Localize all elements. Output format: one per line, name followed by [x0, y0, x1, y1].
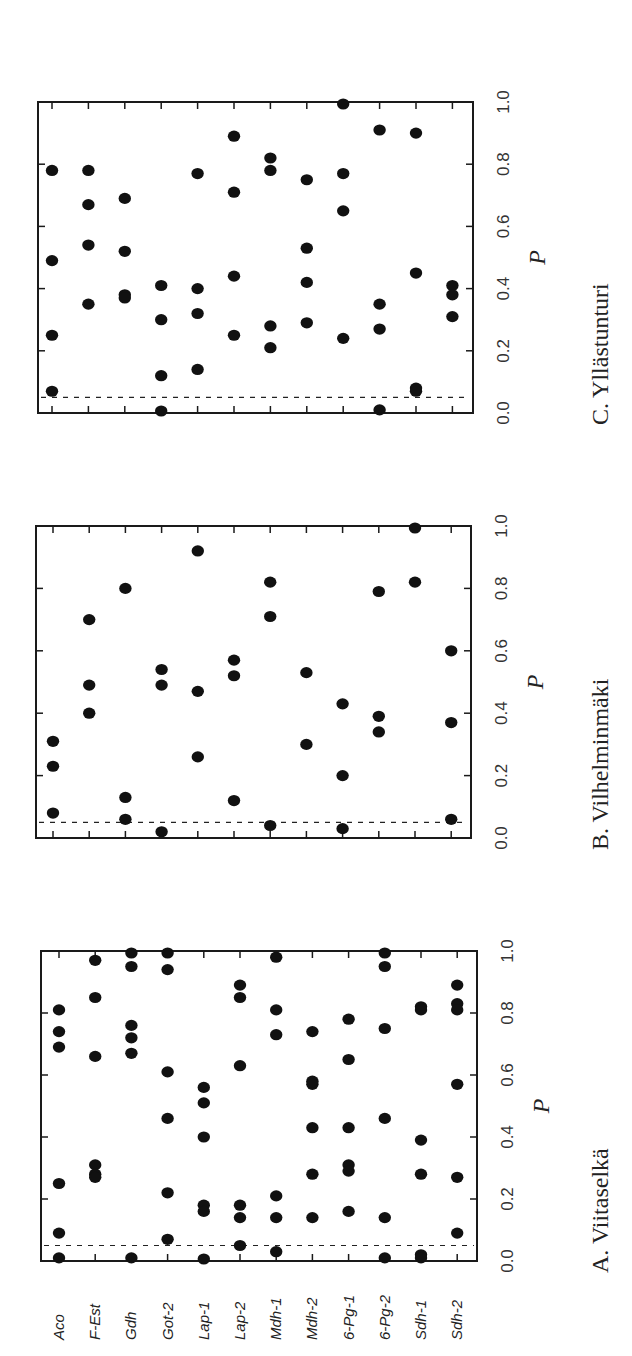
data-point — [373, 711, 385, 722]
data-point — [198, 1253, 210, 1264]
data-point — [451, 1172, 463, 1183]
data-point — [379, 1212, 391, 1223]
data-point — [82, 299, 94, 310]
data-point — [234, 1240, 246, 1251]
data-point — [410, 128, 422, 139]
panel-b-vilhelminmaki: 0.00.20.40.60.81.0PB. Vilhelminmäki — [36, 514, 613, 850]
data-point — [234, 1212, 246, 1223]
data-point — [228, 655, 240, 666]
data-point — [228, 670, 240, 681]
data-point — [379, 961, 391, 972]
data-point — [415, 1004, 427, 1015]
data-point — [379, 1023, 391, 1034]
data-point — [192, 686, 204, 697]
data-point — [410, 267, 422, 278]
data-point — [89, 1051, 101, 1062]
data-point — [198, 1131, 210, 1142]
data-point — [53, 1004, 65, 1015]
data-point — [228, 187, 240, 198]
data-point — [415, 1135, 427, 1146]
data-point — [446, 311, 458, 322]
data-point — [53, 1252, 65, 1263]
data-point — [342, 1054, 354, 1065]
data-point — [191, 308, 203, 319]
data-point — [301, 317, 313, 328]
data-point — [270, 1004, 282, 1015]
data-point — [155, 370, 167, 381]
data-point — [451, 1079, 463, 1090]
locus-label: Aco — [50, 1314, 67, 1341]
data-point — [155, 664, 167, 675]
data-point — [264, 577, 276, 588]
p-tick-label: 1.0 — [492, 514, 511, 538]
data-point — [264, 611, 276, 622]
data-point — [451, 1004, 463, 1015]
p-tick-label: 1.0 — [498, 939, 517, 963]
data-point — [373, 726, 385, 737]
data-point — [306, 1169, 318, 1180]
data-point — [337, 98, 349, 109]
data-point — [53, 1178, 65, 1189]
data-point — [373, 323, 385, 334]
locus-labels: AcoF-EstGdhGot-2Lap-1Lap-2Mdh-1Mdh-26-Pg… — [50, 1294, 465, 1341]
data-point — [155, 314, 167, 325]
data-point — [373, 404, 385, 415]
data-point — [373, 586, 385, 597]
data-point — [445, 814, 457, 825]
data-point — [192, 545, 204, 556]
data-point — [46, 165, 58, 176]
data-point — [342, 1014, 354, 1025]
data-point — [119, 583, 131, 594]
locus-label: 6-Pg-2 — [376, 1294, 393, 1340]
figure: 0.00.20.40.60.81.0PA. Viitaselkä 0.00.20… — [0, 0, 632, 1356]
p-tick-label: 0.2 — [492, 764, 511, 788]
data-point — [47, 736, 59, 747]
data-point — [306, 1026, 318, 1037]
locus-label: 6-Pg-1 — [340, 1295, 357, 1340]
data-point — [300, 667, 312, 678]
data-point — [119, 814, 131, 825]
data-point — [125, 961, 137, 972]
data-point — [301, 243, 313, 254]
data-point — [234, 992, 246, 1003]
data-point — [228, 795, 240, 806]
p-tick-label: 0.2 — [494, 339, 513, 363]
data-point — [161, 1066, 173, 1077]
data-point — [379, 1252, 391, 1263]
data-point — [409, 522, 421, 533]
data-point — [53, 1228, 65, 1239]
locus-label: Sdh-2 — [448, 1299, 465, 1340]
locus-label: Lap-2 — [231, 1301, 248, 1340]
data-point — [228, 131, 240, 142]
p-tick-label: 0.8 — [494, 152, 513, 176]
data-point — [445, 645, 457, 656]
data-point — [342, 1206, 354, 1217]
data-point — [89, 1172, 101, 1183]
data-point — [125, 1252, 137, 1263]
data-point — [83, 680, 95, 691]
data-point — [82, 199, 94, 210]
p-tick-label: 0.8 — [492, 577, 511, 601]
locus-label: Got-2 — [159, 1302, 176, 1340]
data-point — [161, 1187, 173, 1198]
data-point — [53, 1042, 65, 1053]
data-point — [301, 174, 313, 185]
data-point — [264, 320, 276, 331]
p-axis-label: P — [524, 250, 550, 266]
p-tick-label: 0.2 — [498, 1187, 517, 1211]
data-point — [191, 168, 203, 179]
data-point — [264, 165, 276, 176]
locus-label: Mdh-1 — [267, 1297, 284, 1340]
data-point — [82, 239, 94, 250]
data-point — [306, 1079, 318, 1090]
p-tick-label: 0.0 — [494, 401, 513, 425]
data-point — [336, 698, 348, 709]
data-point — [125, 1032, 137, 1043]
data-point — [379, 947, 391, 958]
locus-label: F-Est — [86, 1303, 103, 1340]
data-point — [300, 739, 312, 750]
data-point — [270, 1029, 282, 1040]
data-point — [342, 1166, 354, 1177]
data-point — [119, 193, 131, 204]
panel-caption: A. Viitaselkä — [587, 1148, 613, 1273]
